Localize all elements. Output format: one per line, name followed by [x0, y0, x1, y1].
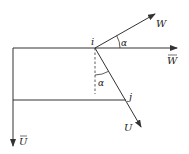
label-vector-u: U	[124, 122, 133, 133]
label-point-i: i	[91, 36, 94, 47]
vector-diagram: i j W W U U α α	[0, 0, 189, 154]
label-angle-bottom: α	[98, 78, 104, 88]
label-angle-top: α	[121, 38, 127, 48]
label-vector-w: W	[156, 18, 167, 29]
label-vector-w-bar: W	[167, 55, 178, 66]
label-point-j: j	[127, 91, 132, 102]
angle-arc-bottom	[95, 71, 109, 75]
angle-arc-top	[117, 36, 120, 48]
label-vector-u-bar: U	[19, 136, 28, 147]
